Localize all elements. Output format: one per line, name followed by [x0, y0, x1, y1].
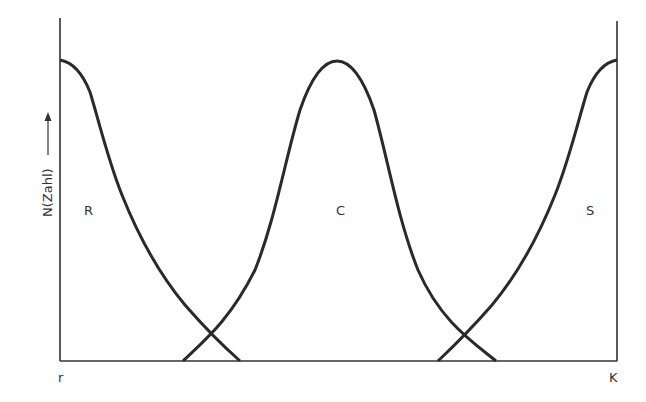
label-s: S	[586, 203, 594, 218]
label-r: R	[84, 203, 93, 218]
y-axis-label-group: N(Zahl)	[40, 112, 55, 217]
arrow-up-icon	[45, 112, 52, 121]
x-label-left: r	[58, 370, 64, 385]
y-axis-label: N(Zahl)	[40, 168, 55, 217]
chart: N(Zahl) R C S r K	[0, 0, 646, 402]
x-label-right: K	[609, 370, 618, 385]
label-c: C	[336, 203, 345, 218]
